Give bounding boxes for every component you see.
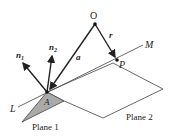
label-L: L bbox=[9, 103, 16, 114]
vector-r-arrow bbox=[95, 24, 115, 57]
label-n1: n1 bbox=[16, 50, 24, 61]
label-M: M bbox=[144, 39, 154, 50]
label-A: A bbox=[43, 97, 50, 107]
label-O: O bbox=[90, 10, 97, 21]
plane-2-shape bbox=[47, 63, 163, 118]
point-A bbox=[45, 90, 49, 94]
point-O bbox=[93, 22, 97, 26]
planes-vector-diagram: O P A r a n1 n2 L M Plane 1 Plane 2 bbox=[0, 0, 171, 136]
label-a: a bbox=[76, 52, 81, 62]
label-r: r bbox=[109, 30, 113, 40]
label-plane-2: Plane 2 bbox=[126, 112, 153, 122]
label-plane-1: Plane 1 bbox=[32, 122, 59, 132]
label-P: P bbox=[118, 59, 125, 70]
diagram-canvas: O P A r a n1 n2 L M Plane 1 Plane 2 bbox=[0, 0, 171, 136]
vector-n1-arrow bbox=[23, 63, 47, 92]
label-n2: n2 bbox=[49, 42, 57, 53]
